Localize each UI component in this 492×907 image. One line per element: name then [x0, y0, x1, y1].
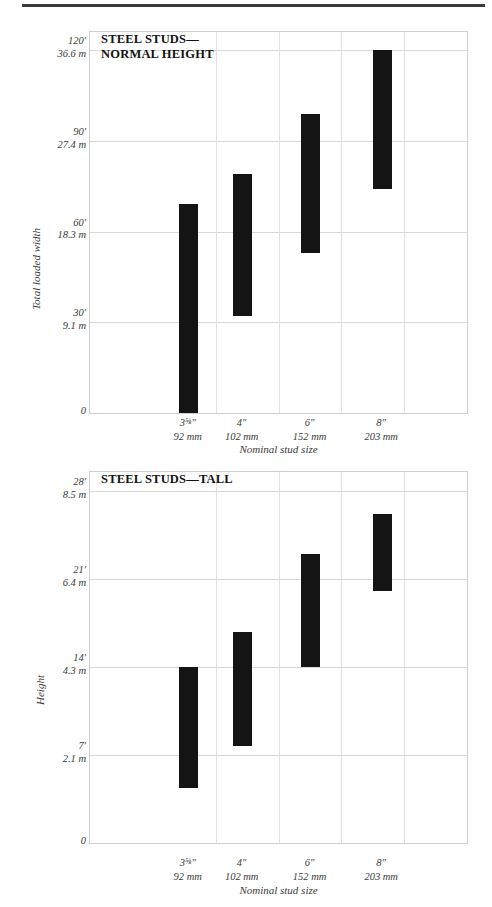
x-tick-mm: 102 mm — [207, 430, 277, 444]
y-tick-feet: 7' — [12, 740, 86, 753]
bar-range — [373, 514, 392, 592]
x-tick-label: 8″203 mm — [346, 416, 416, 443]
x-tick-inches: 4″ — [207, 856, 277, 870]
y-tick-label: 120'36.6 m — [12, 35, 86, 61]
bar-range — [373, 50, 392, 189]
x-tick-mm: 203 mm — [346, 430, 416, 444]
y-tick-label: 0 — [12, 835, 86, 848]
y-tick-label: 21'6.4 m — [12, 564, 86, 590]
y-tick-feet: 0 — [12, 835, 86, 848]
x-tick-label: 8″203 mm — [346, 856, 416, 883]
y-tick-feet: 120' — [12, 35, 86, 48]
y-tick-meters: 9.1 m — [12, 320, 86, 333]
y-tick-label: 7'2.1 m — [12, 740, 86, 766]
y-axis-ticks-top: 120'36.6 m90'27.4 m60'18.3 m30'9.1 m0 — [8, 31, 86, 414]
y-axis-label-bottom: Height — [34, 675, 46, 705]
x-tick-label: 6″152 mm — [275, 416, 345, 443]
bar-range — [179, 204, 198, 413]
x-axis-label-top: Nominal stud size — [89, 443, 468, 455]
gridline-vertical — [404, 472, 405, 843]
y-tick-feet: 60' — [12, 217, 86, 230]
y-tick-feet: 14' — [12, 652, 86, 665]
x-tick-mm: 102 mm — [207, 870, 277, 884]
gridline-vertical — [279, 32, 280, 413]
x-tick-inches: 6″ — [275, 416, 345, 430]
gridline-vertical — [216, 472, 217, 843]
x-tick-inches: 4″ — [207, 416, 277, 430]
y-axis-label-top: Total loaded width — [30, 228, 42, 310]
y-tick-feet: 30' — [12, 307, 86, 320]
bar-range — [233, 632, 252, 746]
gridline-vertical — [404, 32, 405, 413]
plot-area-top — [89, 31, 468, 414]
x-tick-inches: 8″ — [346, 416, 416, 430]
gridline-vertical — [279, 472, 280, 843]
bar-range — [179, 667, 198, 788]
y-tick-label: 28'8.5 m — [12, 476, 86, 502]
x-tick-mm: 152 mm — [275, 870, 345, 884]
y-axis-ticks-bottom: 28'8.5 m21'6.4 m14'4.3 m7'2.1 m0 — [8, 471, 86, 844]
x-tick-mm: 152 mm — [275, 430, 345, 444]
x-tick-inches: 6″ — [275, 856, 345, 870]
y-tick-feet: 21' — [12, 564, 86, 577]
bar-range — [301, 554, 320, 667]
y-tick-meters: 6.4 m — [12, 577, 86, 590]
plot-area-bottom — [89, 471, 468, 844]
y-tick-label: 30'9.1 m — [12, 307, 86, 333]
y-tick-meters: 18.3 m — [12, 229, 86, 242]
gridline-vertical — [216, 32, 217, 413]
x-tick-label: 6″152 mm — [275, 856, 345, 883]
page-top-rule — [22, 4, 485, 7]
x-axis-label-bottom: Nominal stud size — [89, 884, 468, 896]
y-tick-meters: 4.3 m — [12, 665, 86, 678]
gridline-vertical — [341, 32, 342, 413]
bar-range — [233, 174, 252, 316]
x-tick-label: 4″102 mm — [207, 856, 277, 883]
x-tick-inches: 8″ — [346, 856, 416, 870]
y-tick-label: 60'18.3 m — [12, 217, 86, 243]
y-tick-feet: 28' — [12, 476, 86, 489]
y-tick-meters: 2.1 m — [12, 753, 86, 766]
y-tick-feet: 90' — [12, 126, 86, 139]
y-tick-meters: 36.6 m — [12, 48, 86, 61]
chart-title-bottom: STEEL STUDS—TALL — [101, 472, 233, 487]
chart-title-top: STEEL STUDS— NORMAL HEIGHT — [101, 32, 214, 63]
bar-range — [301, 114, 320, 253]
figure-page: STEEL STUDS— NORMAL HEIGHT 120'36.6 m90'… — [0, 0, 492, 907]
gridline-vertical — [341, 472, 342, 843]
y-tick-label: 90'27.4 m — [12, 126, 86, 152]
y-tick-feet: 0 — [12, 405, 86, 418]
x-tick-label: 4″102 mm — [207, 416, 277, 443]
y-tick-meters: 8.5 m — [12, 489, 86, 502]
x-tick-mm: 203 mm — [346, 870, 416, 884]
y-tick-label: 14'4.3 m — [12, 652, 86, 678]
y-tick-label: 0 — [12, 405, 86, 418]
y-tick-meters: 27.4 m — [12, 139, 86, 152]
